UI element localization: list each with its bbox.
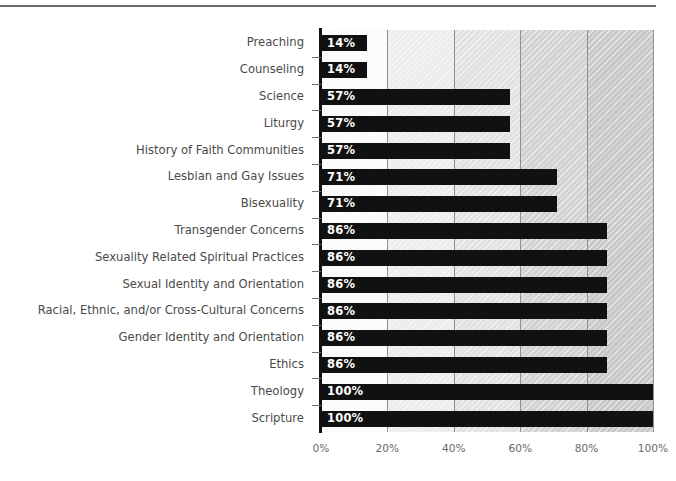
category-label: Bisexuality [241,198,304,210]
x-tick-label: 0% [313,443,330,454]
bar-chart-figure: Preaching14%Counseling14%Science57%Litur… [0,0,676,481]
y-axis-tick-mark [312,405,321,406]
x-axis-tick-labels: 0%20%40%60%80%100% [321,443,653,459]
bar-row: History of Faith Communities57% [321,137,653,164]
bar-value-label: 14% [321,64,355,76]
bar-value-label: 71% [321,198,355,210]
bar-row: Lesbian and Gay Issues71% [321,164,653,191]
bar-row: Science57% [321,84,653,111]
bar-row: Sexual Identity and Orientation86% [321,271,653,298]
bar-row: Transgender Concerns86% [321,218,653,245]
bar-row: Sexuality Related Spiritual Practices86% [321,244,653,271]
bar: 100% [321,384,653,400]
bar: 86% [321,357,607,373]
bar-value-label: 86% [321,252,355,264]
bar-row: Gender Identity and Orientation86% [321,325,653,352]
bar-value-label: 71% [321,172,355,184]
bar: 86% [321,223,607,239]
bar: 71% [321,169,557,185]
y-axis-tick-mark [312,244,321,245]
category-label: Ethics [269,359,304,371]
bar-value-label: 57% [321,91,355,103]
category-label: Counseling [240,64,304,76]
bar: 14% [321,35,367,51]
gridline-vertical [653,30,654,432]
bar: 57% [321,116,510,132]
bar-row: Racial, Ethnic, and/or Cross-Cultural Co… [321,298,653,325]
bar-row: Scripture100% [321,405,653,432]
y-axis-tick-mark [312,271,321,272]
bar-value-label: 14% [321,38,355,50]
bar-row: Counseling14% [321,57,653,84]
x-tick-label: 40% [442,443,466,454]
bar-value-label: 86% [321,359,355,371]
category-label: Liturgy [264,118,304,130]
x-tick-label: 80% [575,443,599,454]
category-label: Scripture [251,413,304,425]
y-axis-tick-mark [312,352,321,353]
x-tick-label: 100% [638,443,668,454]
category-label: Transgender Concerns [175,225,304,237]
y-axis-tick-mark [312,298,321,299]
top-divider-rule [0,5,656,7]
y-axis-tick-mark [312,57,321,58]
bar: 86% [321,303,607,319]
y-axis-tick-mark [312,325,321,326]
category-label: Science [259,91,304,103]
category-label: Racial, Ethnic, and/or Cross-Cultural Co… [38,306,304,318]
bar-value-label: 57% [321,145,355,157]
y-axis-tick-mark [312,137,321,138]
category-label: Sexual Identity and Orientation [122,279,304,291]
y-axis-tick-mark [312,218,321,219]
y-axis-tick-mark [312,84,321,85]
bar-row: Preaching14% [321,30,653,57]
category-label: Theology [251,386,304,398]
bar: 100% [321,411,653,427]
category-label: Lesbian and Gay Issues [168,172,304,184]
bar-row: Liturgy57% [321,110,653,137]
plot-area: Preaching14%Counseling14%Science57%Litur… [321,30,653,432]
bar: 86% [321,250,607,266]
bar-row: Theology100% [321,378,653,405]
bar-value-label: 86% [321,225,355,237]
y-axis-tick-mark [312,110,321,111]
x-tick-label: 20% [376,443,400,454]
category-label: History of Faith Communities [136,145,304,157]
bar: 86% [321,277,607,293]
bar: 57% [321,143,510,159]
bar-value-label: 86% [321,279,355,291]
category-label: Gender Identity and Orientation [119,332,304,344]
category-label: Sexuality Related Spiritual Practices [95,252,304,264]
bar-value-label: 100% [321,413,363,425]
bar-value-label: 86% [321,332,355,344]
bar: 71% [321,196,557,212]
bar-rows: Preaching14%Counseling14%Science57%Litur… [321,30,653,432]
bar: 86% [321,330,607,346]
bar-row: Bisexuality71% [321,191,653,218]
y-axis-tick-mark [312,164,321,165]
y-axis-tick-mark [312,378,321,379]
bar: 57% [321,89,510,105]
x-tick-label: 60% [508,443,532,454]
bar-value-label: 57% [321,118,355,130]
bar-value-label: 86% [321,306,355,318]
bar-value-label: 100% [321,386,363,398]
bar: 14% [321,62,367,78]
category-label: Preaching [247,38,304,50]
bar-row: Ethics86% [321,352,653,379]
y-axis-tick-mark [312,191,321,192]
